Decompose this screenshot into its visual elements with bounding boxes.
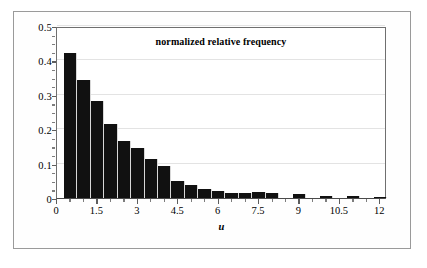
y-axis-labels: 00.10.20.30.40.5: [22, 27, 52, 199]
x-tick-minor: [83, 199, 84, 202]
gridline: [57, 94, 385, 95]
x-tick: [339, 199, 340, 204]
x-tick-minor: [352, 199, 353, 202]
x-axis-title: u: [56, 221, 387, 232]
y-tick-minor: [52, 104, 55, 105]
x-tick: [177, 199, 178, 204]
y-tick-label: 0.3: [38, 90, 52, 101]
plot-area: [56, 27, 386, 199]
x-tick: [258, 199, 259, 204]
chart-title: normalized relative frequency: [56, 36, 386, 47]
x-tick: [218, 199, 219, 204]
gridline: [57, 59, 385, 60]
y-tick-minor: [52, 182, 55, 183]
y-tick-minor: [52, 36, 55, 37]
chart-canvas: 00.10.20.30.40.5 normalized relative fre…: [0, 0, 427, 268]
bar: [320, 196, 333, 198]
bar: [64, 53, 77, 198]
y-tick-minor: [52, 87, 55, 88]
x-tick: [96, 199, 97, 204]
y-tick-minor: [52, 44, 55, 45]
y-tick-minor: [52, 190, 55, 191]
x-tick-label: 9: [296, 205, 301, 216]
x-tick-label: 4.5: [171, 205, 184, 216]
x-tick-minor: [204, 199, 205, 202]
bar: [252, 192, 265, 198]
x-tick-minor: [366, 199, 367, 202]
y-tick-label: 0.1: [38, 159, 52, 170]
bar: [266, 193, 279, 198]
bar: [131, 148, 144, 198]
bar: [198, 189, 211, 198]
bar: [118, 141, 131, 198]
y-tick-minor: [52, 53, 55, 54]
x-tick-minor: [164, 199, 165, 202]
bar: [374, 197, 387, 198]
y-tick-minor: [52, 113, 55, 114]
x-tick-label: 7.5: [251, 205, 264, 216]
x-axis-labels: 01.534.567.5910.512: [56, 205, 387, 221]
x-tick-minor: [231, 199, 232, 202]
x-tick: [137, 199, 138, 204]
x-tick-minor: [325, 199, 326, 202]
x-tick-label: 10.5: [330, 205, 348, 216]
x-tick-minor: [272, 199, 273, 202]
y-tick-minor: [52, 122, 55, 123]
y-tick-label: 0.4: [38, 56, 52, 67]
y-tick-minor: [52, 79, 55, 80]
x-tick-minor: [191, 199, 192, 202]
bar: [347, 196, 360, 198]
y-tick-minor: [52, 147, 55, 148]
y-tick-label: 0.2: [38, 125, 52, 136]
y-tick-minor: [52, 156, 55, 157]
x-tick-minor: [110, 199, 111, 202]
x-tick: [298, 199, 299, 204]
y-tick-minor: [52, 70, 55, 71]
x-tick-label: 3: [134, 205, 139, 216]
x-tick: [379, 199, 380, 204]
bar: [158, 166, 171, 198]
x-tick: [56, 199, 57, 204]
bar: [145, 159, 158, 198]
bar: [293, 194, 306, 198]
bar: [171, 181, 184, 198]
x-tick-label: 12: [374, 205, 385, 216]
bar: [212, 191, 225, 198]
x-tick-label: 1.5: [90, 205, 103, 216]
y-tick-label: 0.5: [38, 22, 52, 33]
x-tick-minor: [285, 199, 286, 202]
x-tick-label: 6: [215, 205, 220, 216]
y-tick-minor: [52, 173, 55, 174]
x-tick-minor: [123, 199, 124, 202]
x-tick-label: 0: [53, 205, 58, 216]
x-tick-minor: [69, 199, 70, 202]
bar: [91, 101, 104, 198]
x-tick-minor: [312, 199, 313, 202]
x-tick-minor: [245, 199, 246, 202]
bar: [185, 185, 198, 198]
gridline: [57, 25, 385, 26]
bar: [77, 80, 90, 198]
bar: [239, 193, 252, 198]
y-tick-minor: [52, 139, 55, 140]
x-tick-minor: [150, 199, 151, 202]
bar: [225, 193, 238, 198]
bar: [104, 124, 117, 198]
